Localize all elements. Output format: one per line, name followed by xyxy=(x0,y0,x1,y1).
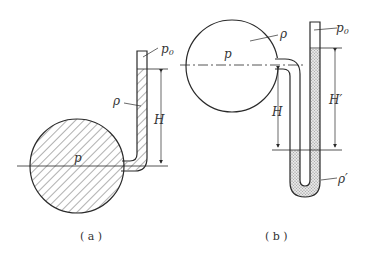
caption-b: ( b ) xyxy=(265,230,288,243)
figure-b: p0 ρ p H H′ ρ′ ( b ) xyxy=(180,20,349,243)
label-rho-b: ρ xyxy=(279,27,287,41)
figure-a: p0 ρ H p ( a ) xyxy=(17,42,174,243)
caption-a: ( a ) xyxy=(80,230,102,243)
label-p0-a: p0 xyxy=(161,42,174,57)
label-p-b: p xyxy=(224,47,232,61)
label-p-a: p xyxy=(74,151,82,165)
manometer-diagrams: p0 ρ H p ( a ) p0 ρ p H H′ ρ′ ( xyxy=(0,0,365,256)
manometer-fluid-b xyxy=(290,49,320,197)
manometer-tube-a xyxy=(121,69,147,170)
vessel-sphere-b xyxy=(186,20,278,112)
label-rho-a: ρ xyxy=(112,94,120,108)
label-p0-b: p0 xyxy=(336,21,349,36)
label-H-prime-b: H′ xyxy=(328,93,342,107)
label-H-a: H xyxy=(153,113,165,127)
label-H-b: H xyxy=(271,105,283,119)
label-rho-prime-b: ρ′ xyxy=(337,172,348,186)
